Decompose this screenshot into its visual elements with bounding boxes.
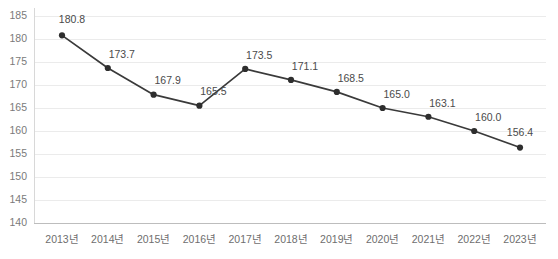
x-axis-tick-label: 2022년 (458, 233, 491, 245)
y-axis-tick-label: 140 (9, 216, 27, 228)
y-axis-tick-label: 155 (9, 147, 27, 159)
x-axis: 2013년2014년2015년2016년2017년2018년2019년2020년… (45, 233, 536, 245)
data-point-marker (242, 66, 248, 72)
data-point-label: 180.8 (59, 13, 85, 25)
x-axis-tick-label: 2016년 (183, 233, 216, 245)
data-point-marker (425, 114, 431, 120)
data-point-label: 156.4 (507, 126, 533, 138)
x-axis-tick-label: 2019년 (320, 233, 353, 245)
data-point-label: 163.1 (429, 97, 455, 109)
data-point-label: 171.1 (292, 60, 318, 72)
data-point-marker (334, 89, 340, 95)
data-point-label: 165.0 (383, 88, 409, 100)
x-axis-tick-label: 2013년 (45, 233, 78, 245)
data-point-marker (151, 92, 157, 98)
data-point-label: 168.5 (338, 72, 364, 84)
x-axis-tick-label: 2021년 (412, 233, 445, 245)
y-axis-tick-label: 180 (9, 32, 27, 44)
data-labels-group: 180.8173.7167.9165.5173.5171.1168.5165.0… (59, 13, 533, 138)
x-axis-tick-label: 2020년 (366, 233, 399, 245)
x-axis-tick-label: 2023년 (503, 233, 536, 245)
data-point-marker (517, 144, 523, 150)
y-axis: 140145150155160165170175180185 (9, 8, 34, 228)
data-point-label: 173.7 (109, 48, 135, 60)
chart-canvas: 140145150155160165170175180185 2013년2014… (0, 0, 558, 259)
data-point-marker (105, 65, 111, 71)
data-point-marker (59, 32, 65, 38)
x-axis-tick-label: 2015년 (137, 233, 170, 245)
data-point-label: 160.0 (475, 111, 501, 123)
y-axis-tick-label: 165 (9, 101, 27, 113)
y-axis-tick-label: 185 (9, 9, 27, 21)
x-axis-tick-label: 2018년 (274, 233, 307, 245)
x-axis-tick-label: 2014년 (91, 233, 124, 245)
y-axis-tick-label: 175 (9, 55, 27, 67)
y-axis-tick-label: 160 (9, 124, 27, 136)
data-point-label: 167.9 (154, 74, 180, 86)
y-axis-tick-label: 150 (9, 170, 27, 182)
data-point-marker (196, 103, 202, 109)
y-axis-tick-label: 170 (9, 78, 27, 90)
data-point-marker (380, 105, 386, 111)
line-chart: 140145150155160165170175180185 2013년2014… (0, 0, 558, 259)
y-axis-tick-label: 145 (9, 193, 27, 205)
data-point-label: 173.5 (246, 49, 272, 61)
x-axis-tick-label: 2017년 (229, 233, 262, 245)
data-point-label: 165.5 (200, 85, 226, 97)
data-point-marker (471, 128, 477, 134)
data-point-marker (288, 77, 294, 83)
